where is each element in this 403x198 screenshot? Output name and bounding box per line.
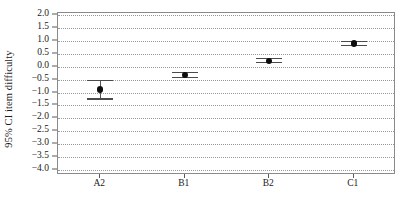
data-point-marker [351, 40, 357, 46]
chart-figure: 95% CI item difficulty 2.01.51.00.50.0−0… [0, 0, 403, 198]
gridline [58, 15, 394, 16]
x-axis-tick-label-b2: B2 [263, 179, 274, 189]
y-axis-tick-label: −4.0 [32, 164, 49, 174]
y-axis-ticks: 2.01.51.00.50.0−0.5−1.0−1.5−2.0−2.5−3.0−… [0, 0, 57, 198]
gridline [58, 144, 394, 145]
y-axis-tick-label: −3.0 [32, 138, 49, 148]
x-axis-tick-label-a2: A2 [93, 179, 105, 189]
gridline [58, 118, 394, 119]
y-axis-tick-label: −3.5 [32, 151, 49, 161]
error-bar-lower-cap [87, 98, 113, 100]
gridline [58, 67, 394, 68]
plot-area [57, 12, 395, 174]
x-axis-tick-label-c1: C1 [347, 179, 358, 189]
error-bar-upper-cap [87, 80, 113, 82]
y-axis-tick-label: 1.5 [37, 22, 49, 32]
y-axis-tick-label: 0.5 [37, 48, 49, 58]
y-axis-tick-label: 2.0 [37, 9, 49, 19]
data-point-marker [97, 86, 103, 92]
y-axis-tick-label: 0.0 [37, 61, 49, 71]
x-axis-ticks: A2B1B2C1 [57, 174, 395, 198]
gridline [58, 170, 394, 171]
gridline [58, 157, 394, 158]
gridline [58, 93, 394, 94]
gridline [58, 54, 394, 55]
y-axis-tick-label: −2.0 [32, 113, 49, 123]
gridline [58, 131, 394, 132]
y-axis-tick-label: −1.5 [32, 100, 49, 110]
gridline [58, 105, 394, 106]
gridline [58, 28, 394, 29]
x-axis-tick-label-b1: B1 [178, 179, 189, 189]
y-axis-tick-label: −1.0 [32, 87, 49, 97]
y-axis-tick-label: 1.0 [37, 35, 49, 45]
y-axis-tick-label: −2.5 [32, 126, 49, 136]
y-axis-tick-label: −0.5 [32, 74, 49, 84]
